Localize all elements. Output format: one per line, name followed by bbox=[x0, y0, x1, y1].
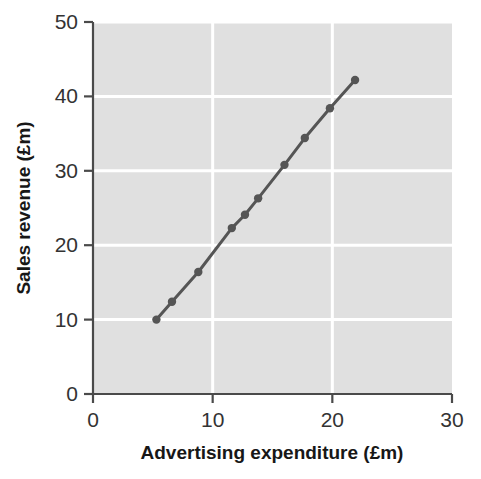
y-tick-label: 0 bbox=[66, 382, 78, 405]
data-point-marker bbox=[228, 224, 236, 232]
x-axis-tick-labels: 0102030 bbox=[87, 408, 464, 431]
y-tick-label: 10 bbox=[55, 308, 78, 331]
x-axis-ticks bbox=[93, 394, 452, 403]
data-point-marker bbox=[194, 268, 202, 276]
y-tick-label: 30 bbox=[55, 159, 78, 182]
chart-container: 01020304050 0102030 Advertising expendit… bbox=[0, 0, 481, 479]
x-tick-label: 0 bbox=[87, 408, 99, 431]
y-axis-tick-labels: 01020304050 bbox=[55, 10, 78, 405]
y-tick-label: 20 bbox=[55, 233, 78, 256]
plot-background bbox=[93, 22, 452, 394]
line-chart: 01020304050 0102030 Advertising expendit… bbox=[0, 0, 481, 479]
x-tick-label: 10 bbox=[201, 408, 224, 431]
x-tick-label: 30 bbox=[440, 408, 463, 431]
data-point-marker bbox=[254, 194, 262, 202]
y-axis-ticks bbox=[84, 22, 93, 394]
data-point-marker bbox=[152, 315, 160, 323]
x-axis-title: Advertising expenditure (£m) bbox=[141, 442, 404, 463]
x-tick-label: 20 bbox=[321, 408, 344, 431]
data-point-marker bbox=[301, 134, 309, 142]
y-axis-title: Sales revenue (£m) bbox=[13, 121, 34, 294]
data-point-marker bbox=[351, 76, 359, 84]
y-tick-label: 50 bbox=[55, 10, 78, 33]
data-point-marker bbox=[241, 210, 249, 218]
data-point-marker bbox=[280, 161, 288, 169]
y-tick-label: 40 bbox=[55, 84, 78, 107]
data-point-marker bbox=[168, 298, 176, 306]
data-point-marker bbox=[326, 104, 334, 112]
